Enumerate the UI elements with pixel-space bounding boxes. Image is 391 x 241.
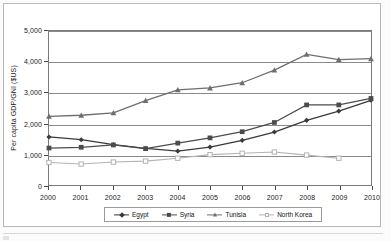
y-axis-title: Per capita GDP/GNI ($US) [10, 48, 17, 168]
series-lines [49, 31, 371, 185]
data-point-marker [111, 143, 116, 148]
data-point-marker [176, 156, 180, 160]
data-point-marker [143, 159, 147, 163]
data-point-marker [240, 138, 245, 143]
y-axis-tick-label: 0 [38, 183, 42, 190]
x-axis-tick-mark [48, 186, 49, 190]
series-north-korea [47, 150, 341, 166]
y-axis-tick-label: 5,000 [24, 27, 42, 34]
data-point-marker [47, 160, 51, 164]
x-axis-tick-label: 2000 [40, 194, 56, 201]
page-mark [3, 236, 9, 240]
data-point-marker [336, 109, 341, 114]
legend-marker-diamond [119, 212, 125, 218]
chart-figure: Per capita GDP/GNI ($US) 01,0002,0003,00… [0, 0, 391, 241]
legend-label: Syria [180, 211, 195, 218]
legend-item-egypt[interactable]: Egypt [114, 211, 149, 218]
series-egypt [46, 98, 373, 154]
data-point-marker [304, 153, 308, 157]
data-point-marker [208, 136, 213, 141]
legend-item-north-korea[interactable]: North Korea [259, 211, 312, 218]
legend-label: Egypt [132, 211, 149, 218]
data-point-marker [304, 118, 309, 123]
data-point-marker [79, 162, 83, 166]
data-point-marker [143, 146, 148, 151]
x-axis-tick-mark [242, 186, 243, 190]
legend-swatch [259, 214, 274, 215]
series-line [49, 100, 371, 151]
legend-marker-open-square [265, 213, 269, 217]
x-axis-tick-mark [307, 186, 308, 190]
legend-item-tunisia[interactable]: Tunisia [207, 211, 246, 218]
page-rule [3, 233, 383, 234]
plot-area [48, 30, 372, 186]
legend-item-syria[interactable]: Syria [162, 211, 195, 218]
x-axis-tick-mark [340, 186, 341, 190]
x-axis-tick-mark [80, 186, 81, 190]
data-point-marker [79, 145, 84, 150]
data-point-marker [240, 129, 245, 134]
data-point-marker [304, 103, 309, 108]
data-point-marker [46, 134, 51, 139]
data-point-marker [336, 103, 341, 108]
legend-swatch [207, 214, 222, 215]
x-axis-tick-label: 2010 [364, 194, 380, 201]
data-point-marker [47, 146, 52, 151]
x-axis-tick-mark [372, 186, 373, 190]
series-tunisia [46, 52, 374, 119]
x-axis-tick-label: 2004 [170, 194, 186, 201]
series-syria [47, 96, 374, 151]
data-point-marker [175, 149, 180, 154]
legend-swatch [162, 214, 177, 215]
series-line [49, 152, 339, 164]
x-axis-tick-label: 2008 [299, 194, 315, 201]
x-axis-tick-mark [210, 186, 211, 190]
series-line [49, 98, 371, 148]
data-point-marker [208, 152, 212, 156]
data-point-marker [207, 145, 212, 150]
legend-marker-square [167, 212, 171, 216]
legend-swatch [114, 214, 129, 215]
data-point-marker [240, 151, 244, 155]
data-point-marker [272, 150, 276, 154]
data-point-marker [272, 129, 277, 134]
data-point-marker [175, 141, 180, 146]
data-point-marker [337, 156, 341, 160]
legend-label: North Korea [277, 211, 312, 218]
x-axis-tick-mark [113, 186, 114, 190]
x-axis-tick-mark [275, 186, 276, 190]
x-axis-tick-label: 2007 [267, 194, 283, 201]
y-axis-title-container: Per capita GDP/GNI ($US) [6, 30, 20, 186]
y-axis-tick-label: 1,000 [24, 151, 42, 158]
y-axis-tick-label: 4,000 [24, 58, 42, 65]
y-axis-tick-label: 2,000 [24, 120, 42, 127]
data-point-marker [79, 137, 84, 142]
chart-legend: EgyptSyriaTunisiaNorth Korea [104, 207, 322, 222]
x-axis-tick-mark [178, 186, 179, 190]
data-point-marker [369, 96, 374, 101]
x-axis-tick-label: 2003 [137, 194, 153, 201]
legend-label: Tunisia [225, 211, 246, 218]
x-axis-tick-label: 2001 [72, 194, 88, 201]
x-axis-tick-label: 2006 [234, 194, 250, 201]
data-point-marker [272, 120, 277, 125]
x-axis-tick-label: 2009 [332, 194, 348, 201]
x-axis-tick-label: 2005 [202, 194, 218, 201]
x-axis-tick-label: 2002 [105, 194, 121, 201]
legend-marker-triangle [213, 212, 217, 216]
data-point-marker [272, 67, 278, 72]
x-axis-tick-mark [145, 186, 146, 190]
y-axis-tick-label: 3,000 [24, 89, 42, 96]
data-point-marker [111, 160, 115, 164]
